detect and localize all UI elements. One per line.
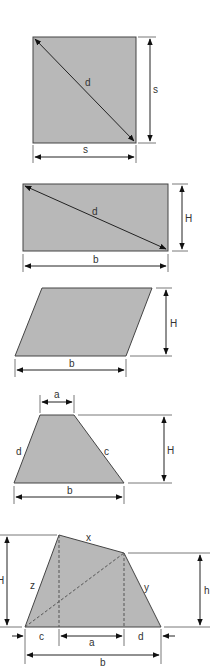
- quad-top-label: x: [86, 532, 91, 543]
- quad-base-label: b: [100, 657, 106, 668]
- square-side-right-label: s: [153, 84, 158, 95]
- trapezoid-height-label: H: [167, 445, 174, 456]
- trapezoid-left-label: d: [16, 446, 22, 457]
- square-figure: d s s: [33, 37, 158, 163]
- shapes-diagram: d s s d H b H b: [0, 0, 212, 668]
- parallelogram-height-label: H: [170, 318, 177, 329]
- square-side-bottom-label: s: [83, 144, 88, 155]
- quad-left-height-label: H: [0, 575, 4, 586]
- quad-right-height-label: h: [204, 585, 210, 596]
- trapezoid-right-label: c: [104, 446, 109, 457]
- trapezoid-base-label: b: [67, 485, 73, 496]
- rectangle-height-label: H: [185, 213, 192, 224]
- quad-c-label: c: [39, 631, 44, 642]
- trapezoid-figure: a d c H b: [14, 389, 174, 504]
- square-diagonal-label: d: [85, 77, 91, 88]
- quadrilateral-shape: [25, 535, 161, 627]
- quad-right-label: y: [144, 582, 149, 593]
- quad-d-label: d: [138, 631, 144, 642]
- quadrilateral-figure: x z y H h c a d b: [0, 532, 210, 668]
- parallelogram-figure: H b: [15, 288, 177, 377]
- parallelogram-shape: [15, 288, 152, 356]
- rectangle-base-label: b: [93, 254, 99, 265]
- rectangle-figure: d H b: [23, 184, 192, 272]
- quad-left-label: z: [30, 580, 35, 591]
- rectangle-diagonal-label: d: [92, 206, 98, 217]
- trapezoid-top-label: a: [54, 389, 60, 400]
- parallelogram-base-label: b: [69, 358, 75, 369]
- quad-a-label: a: [89, 637, 95, 648]
